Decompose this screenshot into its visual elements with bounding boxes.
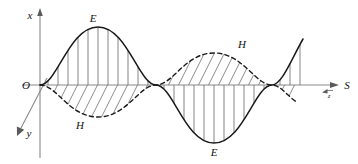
wave-diagram-svg: E E H H O x y S z — [0, 0, 358, 164]
wave-figure: E E H H O x y S z — [0, 0, 358, 164]
x-axis-arrowhead — [37, 8, 43, 16]
e-wave-hatch-lobe3 — [280, 0, 300, 164]
label-h-crest: H — [237, 38, 247, 50]
y-axis-arrowhead — [17, 127, 24, 136]
label-z-axis: z — [327, 92, 331, 100]
label-h-trough: H — [75, 119, 85, 131]
h-wave-hatch-lobe2 — [146, 30, 286, 110]
label-y-axis: y — [26, 127, 32, 139]
label-e-trough: E — [210, 146, 218, 158]
label-s-axis: S — [344, 79, 350, 91]
h-wave-hatch-lobe3 — [262, 50, 322, 130]
label-e-crest: E — [89, 12, 97, 24]
e-wave-hatch-lobe2 — [164, 0, 264, 164]
axes-group — [17, 8, 339, 158]
label-x-axis: x — [27, 9, 33, 21]
h-wave-hatch-lobe1 — [30, 60, 180, 140]
e-wave-hatch-lobe1 — [48, 0, 148, 164]
s-axis-arrowhead — [330, 82, 339, 88]
label-origin: O — [22, 79, 30, 91]
